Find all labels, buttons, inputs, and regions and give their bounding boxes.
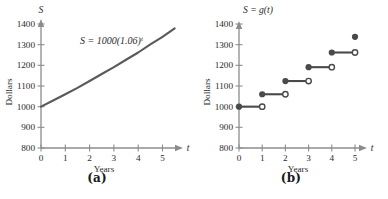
equation-text: S = 1000(1.06) (80, 35, 142, 47)
y-tick-label: 900 (21, 122, 35, 132)
x-tick-label: 0 (39, 153, 44, 163)
closed-endpoint-dot (236, 104, 242, 110)
panel-a-caption: (a) (0, 171, 194, 185)
x-tick-label: 4 (330, 153, 335, 163)
y-axis-symbol-a: S (39, 4, 44, 15)
x-axis-symbol-b: t (371, 142, 374, 153)
x-tick-label: 5 (353, 153, 358, 163)
y-tick-label: 800 (219, 143, 233, 153)
figure-panel-a: 800 900 1000 1100 1200 1300 1400 0 1 2 3… (0, 0, 194, 199)
open-endpoint-dot (329, 64, 334, 69)
chart-a-svg: 800 900 1000 1100 1200 1300 1400 0 1 2 3… (0, 0, 194, 199)
panel-b-caption: (b) (194, 171, 388, 185)
y-axis-arrow-b (236, 21, 242, 29)
y-tick-label: 1000 (215, 102, 234, 112)
y-tick-label: 900 (219, 122, 233, 132)
x-tick-label: 1 (63, 153, 68, 163)
x-tick-label: 5 (160, 153, 165, 163)
chart-b-title: S = g(t) (243, 4, 273, 16)
y-tick-label: 1200 (215, 60, 234, 70)
closed-endpoint-dot (329, 49, 335, 55)
y-axis-title-a: Dollars (4, 78, 14, 105)
y-axis-title-b: Dollars (202, 78, 212, 105)
x-axis-arrow-a (175, 145, 183, 151)
closed-endpoint-dot (282, 78, 288, 84)
step-function-series (236, 34, 358, 110)
closed-endpoint-dot (259, 91, 265, 97)
x-axis-symbol-a: t (187, 142, 190, 153)
equation-annotation-a: S = 1000(1.06)t (80, 35, 144, 47)
y-tick-label: 1100 (215, 81, 233, 91)
x-tick-label: 3 (306, 153, 311, 163)
x-tick-label: 3 (112, 153, 117, 163)
y-tick-label: 1200 (17, 60, 36, 70)
y-tick-label: 1300 (17, 40, 36, 50)
x-axis-arrow-b (359, 145, 367, 151)
closed-endpoint-dot (352, 34, 358, 40)
y-tick-label: 1400 (17, 19, 36, 29)
y-tick-label: 800 (21, 143, 35, 153)
x-tick-label: 2 (87, 153, 92, 163)
open-endpoint-dot (352, 50, 357, 55)
x-tick-label: 4 (136, 153, 141, 163)
open-endpoint-dot (306, 78, 311, 83)
x-tick-label: 0 (237, 153, 242, 163)
y-axis-arrow-a (38, 19, 44, 27)
figure-container: 800 900 1000 1100 1200 1300 1400 0 1 2 3… (0, 0, 388, 199)
y-tick-label: 1300 (215, 40, 234, 50)
figure-panel-b: 800 900 1000 1100 1200 1300 1400 0 1 2 3… (194, 0, 388, 199)
x-tick-label: 2 (283, 153, 288, 163)
closed-endpoint-dot (306, 64, 312, 70)
equation-exponent: t (141, 35, 144, 43)
y-tick-label: 1000 (17, 102, 36, 112)
y-tick-label: 1400 (215, 19, 234, 29)
open-endpoint-dot (260, 104, 265, 109)
chart-b-svg: 800 900 1000 1100 1200 1300 1400 0 1 2 3… (194, 0, 388, 199)
x-tick-label: 1 (260, 153, 265, 163)
y-tick-label: 1100 (17, 81, 35, 91)
chart-b-title-text: S = g(t) (243, 4, 273, 16)
open-endpoint-dot (283, 92, 288, 97)
